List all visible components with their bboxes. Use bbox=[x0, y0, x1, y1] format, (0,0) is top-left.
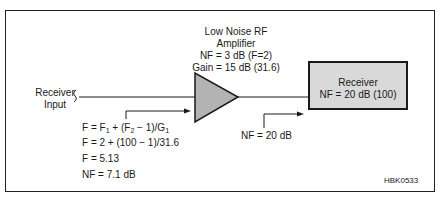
amplifier-nf: NF = 3 dB (F=2) bbox=[176, 50, 296, 62]
amplifier-triangle-icon bbox=[195, 73, 238, 122]
receiver-input-label-line1: Receiver bbox=[35, 87, 75, 99]
equation-friis-formula: F = F1 + (F2 − 1)/G1 bbox=[82, 122, 169, 134]
equation-result-f: F = 5.13 bbox=[82, 153, 119, 165]
receiver-title: Receiver bbox=[310, 77, 406, 89]
amplifier-gain: Gain = 15 dB (31.6) bbox=[176, 62, 296, 74]
equation-result-nf: NF = 7.1 dB bbox=[82, 169, 136, 181]
receiver-input-label-line2: Input bbox=[35, 99, 75, 111]
amplifier-title-line2: Amplifier bbox=[176, 38, 296, 50]
receiver-nf: NF = 20 dB (100) bbox=[310, 89, 406, 101]
receiver-block: Receiver NF = 20 dB (100) bbox=[308, 61, 408, 110]
arrowhead-icon bbox=[297, 112, 304, 117]
amplifier-title-line1: Low Noise RF bbox=[176, 26, 296, 38]
receiver-callout-line bbox=[264, 114, 297, 128]
arrowhead-icon bbox=[184, 109, 191, 114]
figure-id: HBK0533 bbox=[384, 175, 418, 187]
equation-substitution: F = 2 + (100 − 1)/31.6 bbox=[82, 137, 179, 149]
receiver-nf-callout: NF = 20 dB bbox=[241, 130, 292, 142]
amplifier-callout-line bbox=[126, 111, 184, 119]
